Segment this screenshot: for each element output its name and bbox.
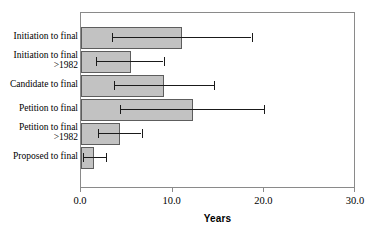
category-label: Candidate to final (0, 79, 78, 90)
error-bar-cap-high (164, 57, 165, 66)
error-bar-line (96, 61, 164, 62)
bar-band (81, 26, 356, 50)
category-label: Initiation to final >1982 (0, 50, 78, 71)
bar-band (81, 146, 356, 170)
bar-band (81, 74, 356, 98)
error-bar-cap-high (252, 33, 253, 42)
x-axis-tick-label: 20.0 (254, 194, 272, 207)
bar-band (81, 50, 356, 74)
bar-band (81, 98, 356, 122)
error-bar-line (83, 157, 106, 158)
bar (81, 99, 193, 121)
error-bar-line (98, 133, 141, 134)
error-bar-cap-low (96, 57, 97, 66)
category-label: Initiation to final (0, 31, 78, 42)
error-bar-line (112, 37, 251, 38)
error-bar-cap-high (264, 105, 265, 114)
plot-area (80, 12, 355, 188)
category-label: Petition to final >1982 (0, 122, 78, 143)
x-axis-tick-label: 10.0 (162, 194, 180, 207)
error-bar-cap-high (142, 129, 143, 138)
x-axis-tick (263, 188, 264, 192)
error-bar-cap-low (112, 33, 113, 42)
category-label: Petition to final (0, 103, 78, 114)
error-bar-cap-low (83, 153, 84, 162)
error-bar-cap-high (106, 153, 107, 162)
category-label: Proposed to final (0, 151, 78, 162)
category-axis-labels: Initiation to finalInitiation to final >… (0, 12, 78, 188)
bar (81, 27, 182, 49)
error-bar-cap-low (114, 81, 115, 90)
bar (81, 75, 164, 97)
bar (81, 51, 131, 73)
error-bar-line (114, 85, 214, 86)
x-axis-title: Years (80, 213, 355, 224)
x-axis-tick-label: 0.0 (73, 194, 86, 207)
x-axis-tick-labels: 0.010.020.030.0 (0, 194, 373, 208)
bar-chart: Initiation to finalInitiation to final >… (0, 0, 373, 237)
x-axis-ticks (80, 188, 355, 193)
bar-band (81, 122, 356, 146)
error-bar-line (120, 109, 264, 110)
error-bar-cap-low (120, 105, 121, 114)
bar (81, 123, 120, 145)
x-axis-tick-label: 30.0 (346, 194, 364, 207)
x-axis-tick (172, 188, 173, 192)
x-axis-tick (80, 188, 81, 192)
x-axis-tick (354, 188, 355, 192)
error-bar-cap-low (98, 129, 99, 138)
error-bar-cap-high (214, 81, 215, 90)
